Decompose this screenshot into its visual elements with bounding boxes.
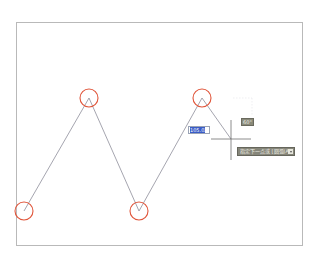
length-input-value: 105.02: [190, 127, 205, 133]
tracking-guides: [233, 98, 252, 116]
vertex-markers: [15, 89, 211, 220]
chevron-down-icon[interactable]: [288, 149, 293, 154]
drawing-layer: [0, 0, 316, 258]
command-prompt-tooltip[interactable]: 指定下一点或 [圆弧(A)]: [237, 147, 295, 156]
angle-tooltip: 60°: [241, 118, 254, 126]
prompt-text: 指定下一点或 [圆弧(A)]: [240, 148, 288, 155]
length-input-field[interactable]: 105.02: [188, 126, 210, 134]
polyline-path: [24, 98, 231, 211]
